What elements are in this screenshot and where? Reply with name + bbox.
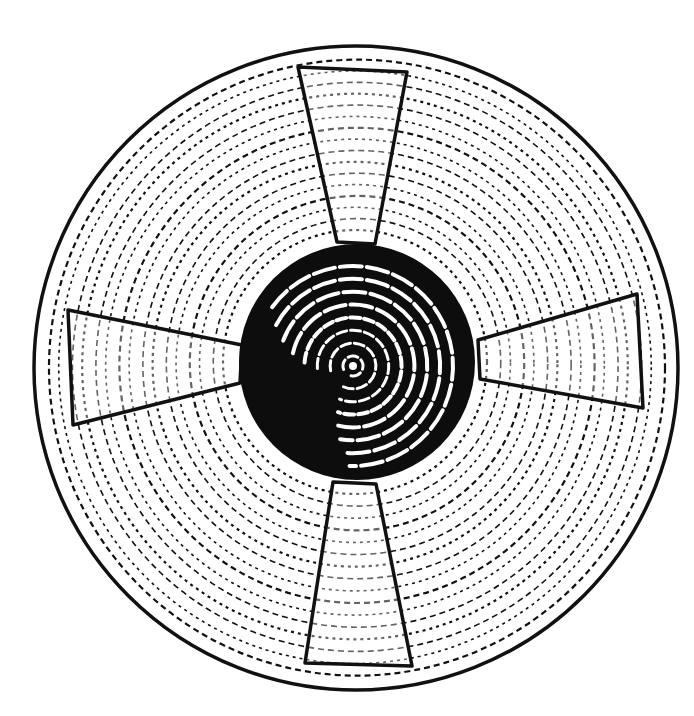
illustration-canvas <box>0 0 694 716</box>
wedge-left <box>68 310 242 425</box>
tree-cross-section-illustration <box>0 0 694 716</box>
wedge-right <box>478 294 643 408</box>
pith <box>349 362 357 370</box>
wedge-bottom <box>305 482 412 666</box>
